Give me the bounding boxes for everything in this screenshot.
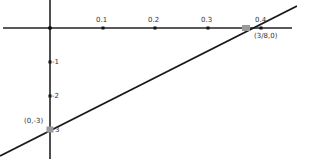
x-tick-0.2 (154, 27, 157, 30)
y-tick-label: 3 (55, 127, 59, 134)
x-tick-label: 0.3 (201, 17, 212, 24)
x-tick-label: 0.1 (96, 17, 107, 24)
y-tick-label: -1 (52, 59, 59, 66)
x-tick-0.4 (260, 27, 263, 30)
y-intercept-point (47, 127, 54, 133)
y-intercept-label: (0,-3) (24, 118, 43, 125)
x-tick-label: 0.2 (148, 17, 159, 24)
origin-point (48, 26, 52, 30)
x-tick-0.1 (102, 27, 105, 30)
x-tick-label: 0.4 (255, 17, 266, 24)
x-intercept-point (242, 25, 250, 31)
x-intercept-label: (3/8,0) (254, 33, 277, 40)
y-tick-label: -2 (52, 93, 59, 100)
x-tick-0.3 (207, 27, 210, 30)
